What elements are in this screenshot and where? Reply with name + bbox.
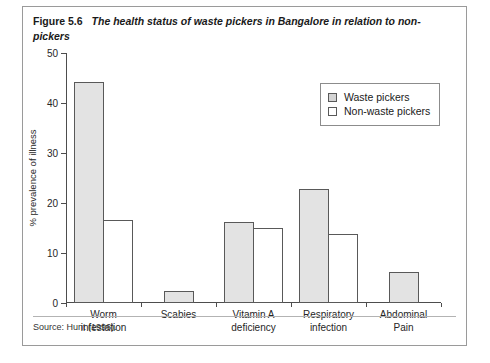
figure-number: Figure 5.6 — [33, 15, 83, 27]
x-axis-tick-mark — [141, 303, 142, 307]
chart-legend: Waste pickers Non-waste pickers — [320, 83, 440, 126]
bar — [74, 82, 104, 304]
y-axis-tick-label: 20 — [47, 198, 58, 209]
y-axis-tick-mark — [61, 53, 66, 54]
figure-title: The health status of waste pickers in Ba… — [33, 15, 421, 42]
bar-group: Scabies — [141, 291, 216, 304]
bar — [389, 272, 419, 303]
bar — [328, 234, 358, 304]
figure-container: Figure 5.6The health status of waste pic… — [22, 6, 467, 346]
legend-item-waste-pickers: Waste pickers — [328, 91, 430, 103]
x-axis-tick-mark — [216, 303, 217, 307]
bar — [253, 228, 283, 303]
bar-group: Worminfestation — [66, 82, 141, 304]
bar — [299, 189, 329, 303]
figure-caption: Figure 5.6The health status of waste pic… — [33, 14, 457, 44]
legend-item-non-waste-pickers: Non-waste pickers — [328, 105, 430, 117]
source-note: Source: Hunt (1996). — [33, 322, 117, 332]
x-axis-tick-mark — [66, 303, 67, 307]
bar-group: Respiratoryinfection — [291, 189, 366, 303]
y-axis-tick-label: 0 — [52, 298, 58, 309]
x-axis-tick-mark — [291, 303, 292, 307]
bar — [224, 222, 254, 303]
y-axis-tick-label: 30 — [47, 148, 58, 159]
x-axis-tick-mark — [366, 303, 367, 307]
x-axis-tick-label: AbdominalPain — [344, 309, 464, 334]
bar-group: Vitamin Adeficiency — [216, 222, 291, 303]
bar — [103, 220, 133, 304]
legend-swatch-icon — [328, 93, 337, 102]
bar — [164, 291, 194, 304]
y-axis-title: % prevalence of illness — [27, 129, 38, 226]
bar-group: AbdominalPain — [366, 272, 441, 303]
legend-swatch-icon — [328, 107, 337, 116]
y-axis-tick-label: 40 — [47, 98, 58, 109]
legend-label: Waste pickers — [344, 91, 410, 103]
source-divider — [33, 316, 456, 317]
y-axis-tick-label: 50 — [47, 48, 58, 59]
y-axis-tick-label: 10 — [47, 248, 58, 259]
x-axis-tick-mark — [441, 303, 442, 307]
legend-label: Non-waste pickers — [344, 105, 430, 117]
